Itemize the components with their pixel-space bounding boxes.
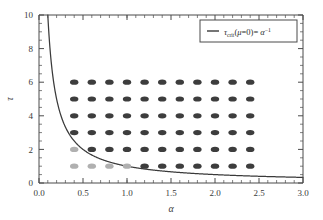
data-marker xyxy=(105,130,113,135)
data-marker xyxy=(246,113,254,118)
data-marker xyxy=(88,164,96,169)
data-marker xyxy=(193,113,201,118)
y-tick-label: 8 xyxy=(29,44,34,54)
data-marker xyxy=(246,80,254,85)
x-tick-label: 1.0 xyxy=(121,188,133,198)
data-marker xyxy=(211,96,219,101)
data-marker xyxy=(176,80,184,85)
data-marker xyxy=(158,80,166,85)
data-marker xyxy=(176,164,184,169)
data-marker xyxy=(228,164,236,169)
data-marker xyxy=(105,164,113,169)
data-marker xyxy=(105,113,113,118)
data-marker xyxy=(193,147,201,152)
data-marker xyxy=(140,130,148,135)
data-marker xyxy=(193,96,201,101)
x-tick-label: 3.0 xyxy=(297,188,309,198)
data-marker xyxy=(140,80,148,85)
data-marker xyxy=(123,113,131,118)
data-marker xyxy=(88,130,96,135)
data-marker xyxy=(123,130,131,135)
data-marker xyxy=(158,164,166,169)
data-marker xyxy=(193,130,201,135)
data-marker xyxy=(105,147,113,152)
data-marker xyxy=(140,147,148,152)
data-marker xyxy=(228,147,236,152)
data-marker xyxy=(211,130,219,135)
y-tick-label: 6 xyxy=(29,77,34,87)
x-tick-label: 2.0 xyxy=(209,188,221,198)
data-marker xyxy=(88,113,96,118)
data-marker xyxy=(88,80,96,85)
data-marker xyxy=(140,164,148,169)
x-tick-label: 2.5 xyxy=(253,188,265,198)
data-marker xyxy=(158,96,166,101)
legend-exponent: −1 xyxy=(265,27,271,33)
data-marker xyxy=(88,96,96,101)
data-marker xyxy=(158,147,166,152)
data-marker xyxy=(70,80,78,85)
data-marker xyxy=(211,80,219,85)
data-marker xyxy=(193,80,201,85)
data-marker xyxy=(123,164,131,169)
data-marker xyxy=(105,80,113,85)
data-marker xyxy=(211,147,219,152)
data-marker xyxy=(228,80,236,85)
data-marker xyxy=(123,96,131,101)
x-tick-label: 1.5 xyxy=(165,188,177,198)
data-marker xyxy=(88,147,96,152)
x-axis-label: α xyxy=(168,203,174,214)
data-marker xyxy=(211,113,219,118)
data-marker xyxy=(70,130,78,135)
data-marker xyxy=(158,113,166,118)
chart-svg: 0.00.51.01.52.02.53.00246810 α τ τcrit(μ… xyxy=(0,0,323,220)
data-marker xyxy=(211,164,219,169)
legend: τcrit(μ=0)= α−1 xyxy=(200,20,297,42)
y-tick-label: 2 xyxy=(29,145,34,155)
data-marker xyxy=(70,164,78,169)
data-marker xyxy=(123,147,131,152)
y-tick-label: 10 xyxy=(24,10,34,20)
data-marker xyxy=(246,164,254,169)
data-marker xyxy=(176,147,184,152)
data-marker xyxy=(176,130,184,135)
data-marker xyxy=(70,113,78,118)
data-marker xyxy=(176,113,184,118)
data-marker xyxy=(246,96,254,101)
data-marker xyxy=(246,130,254,135)
data-marker xyxy=(246,147,254,152)
data-marker xyxy=(228,130,236,135)
data-marker xyxy=(193,164,201,169)
data-marker xyxy=(70,147,78,152)
data-marker xyxy=(228,113,236,118)
data-marker xyxy=(123,80,131,85)
x-tick-label: 0.0 xyxy=(33,188,45,198)
legend-eq-zero: =0 xyxy=(242,27,251,37)
y-axis-label: τ xyxy=(4,97,15,101)
x-tick-label: 0.5 xyxy=(77,188,89,198)
data-marker xyxy=(140,96,148,101)
y-tick-label: 0 xyxy=(29,178,34,188)
data-marker xyxy=(105,96,113,101)
data-marker xyxy=(140,113,148,118)
data-marker xyxy=(158,130,166,135)
y-tick-label: 4 xyxy=(29,111,34,121)
data-marker xyxy=(70,96,78,101)
data-marker xyxy=(228,96,236,101)
chart-figure: 0.00.51.01.52.02.53.00246810 α τ τcrit(μ… xyxy=(0,0,323,220)
data-marker xyxy=(176,96,184,101)
